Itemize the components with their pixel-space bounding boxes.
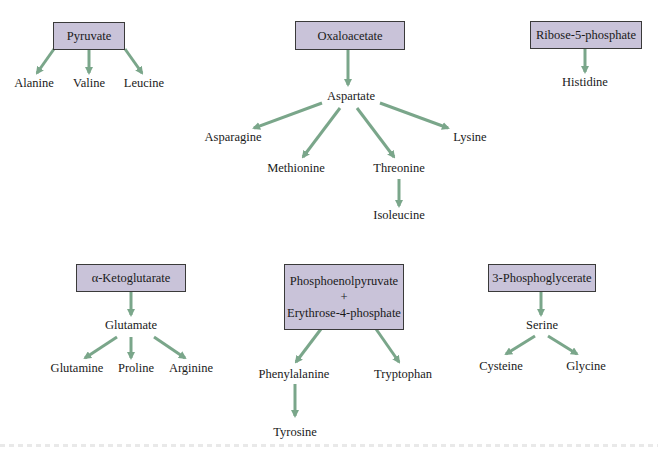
product-alanine: Alanine	[14, 76, 54, 91]
precursor-box-pyruvate: Pyruvate	[53, 22, 125, 50]
cropped-caption-line	[0, 444, 658, 447]
precursor-box-3-phosphoglycerate: 3-Phosphoglycerate	[488, 264, 596, 292]
product-tryptophan: Tryptophan	[374, 367, 432, 382]
precursor-label-plus: +	[340, 289, 347, 305]
intermediate-glutamate: Glutamate	[105, 318, 157, 333]
product-arginine: Arginine	[169, 361, 213, 376]
precursor-box-alpha-ketoglutarate: α-Ketoglutarate	[76, 264, 186, 292]
precursor-label: 3-Phosphoglycerate	[492, 270, 591, 286]
precursor-label: Pyruvate	[67, 28, 111, 44]
product-leucine: Leucine	[124, 76, 164, 91]
precursor-label: Oxaloacetate	[317, 28, 382, 44]
product-glutamine: Glutamine	[51, 361, 104, 376]
precursor-box-ribose-5-phosphate: Ribose-5-phosphate	[530, 21, 642, 49]
product-histidine: Histidine	[562, 75, 608, 90]
product-tyrosine: Tyrosine	[273, 425, 317, 440]
product-asparagine: Asparagine	[205, 130, 262, 145]
pathway-arrows	[0, 0, 658, 451]
precursor-label: Ribose-5-phosphate	[536, 27, 636, 43]
product-lysine: Lysine	[453, 130, 486, 145]
product-cysteine: Cysteine	[479, 359, 523, 374]
precursor-label-line-1: Phosphoenolpyruvate	[290, 273, 398, 289]
product-isoleucine: Isoleucine	[373, 208, 424, 223]
product-glycine: Glycine	[566, 359, 606, 374]
product-threonine: Threonine	[373, 161, 424, 176]
product-phenylalanine: Phenylalanine	[259, 367, 330, 382]
product-proline: Proline	[118, 361, 154, 376]
precursor-box-oxaloacetate: Oxaloacetate	[295, 21, 405, 50]
precursor-label-line-2: Erythrose-4-phosphate	[287, 305, 401, 321]
product-valine: Valine	[73, 76, 105, 91]
product-methionine: Methionine	[267, 161, 325, 176]
intermediate-serine: Serine	[526, 318, 558, 333]
intermediate-aspartate: Aspartate	[327, 89, 375, 104]
precursor-box-pep-erythrose-4-phosphate: Phosphoenolpyruvate + Erythrose-4-phosph…	[284, 264, 404, 330]
precursor-label: α-Ketoglutarate	[92, 270, 171, 286]
amino-acid-biosynthesis-diagram: Pyruvate Alanine Valine Leucine Oxaloace…	[0, 0, 658, 451]
